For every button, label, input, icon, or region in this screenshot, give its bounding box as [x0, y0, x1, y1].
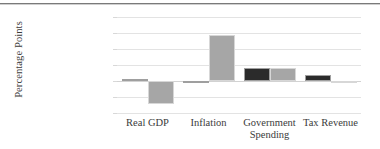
bar-group — [300, 17, 361, 113]
bar-group — [239, 17, 300, 113]
x-axis-category-label: Inflation — [178, 117, 239, 129]
x-axis-category-label: Real GDP — [117, 117, 178, 129]
category-label-line: Government — [243, 117, 296, 128]
plot-area: 20151050-5-10 — [117, 17, 361, 113]
bar-chart-figure: Percentage Points 20151050-5-10 Real GDP… — [0, 0, 380, 149]
category-label-line: Real GDP — [126, 117, 169, 128]
y-axis-title: Percentage Points — [13, 5, 24, 115]
x-axis-category-label: GovernmentSpending — [239, 117, 300, 140]
category-label-line: Inflation — [190, 117, 226, 128]
category-label-line: Tax Revenue — [303, 117, 358, 128]
bar — [331, 81, 357, 83]
bar — [183, 81, 209, 83]
bar — [270, 68, 296, 81]
bar-group — [178, 17, 239, 113]
category-label-line: Spending — [239, 129, 300, 141]
bar — [305, 75, 331, 81]
x-axis-category-label: Tax Revenue — [300, 117, 361, 129]
bar — [148, 81, 174, 104]
gridline — [117, 113, 361, 114]
bar — [122, 79, 148, 81]
clipped-title-fragment — [160, 0, 220, 2]
bar — [244, 68, 270, 81]
bar — [209, 35, 235, 81]
y-axis-tick-mark — [113, 113, 117, 114]
page-top-rule-shadow — [0, 4, 380, 5]
bar-group — [117, 17, 178, 113]
